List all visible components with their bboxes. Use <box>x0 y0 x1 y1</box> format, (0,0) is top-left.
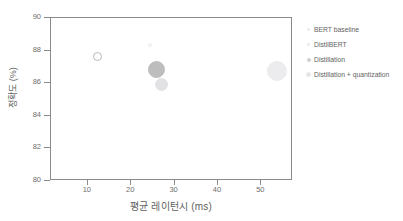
chart-legend: BERT baselineDistilBERTDistillationDisti… <box>303 22 403 82</box>
data-point <box>148 43 152 47</box>
data-point <box>93 52 102 61</box>
data-point <box>267 61 287 81</box>
legend-label: Distillation <box>314 55 345 64</box>
legend-marker-icon <box>303 58 314 62</box>
data-point <box>148 61 165 78</box>
x-tick-label: 30 <box>159 186 189 194</box>
y-tick-label: 80 <box>0 176 41 184</box>
legend-label: BERT baseline <box>314 25 359 34</box>
x-axis-label: 평균 레이턴시 (ms) <box>50 198 292 213</box>
legend-item[interactable]: Distillation + quantization <box>303 67 403 82</box>
y-tick-label: 82 <box>0 143 41 151</box>
y-tick-label: 90 <box>0 13 41 21</box>
x-tick-label: 50 <box>245 186 275 194</box>
legend-item[interactable]: Distillation <box>303 52 403 67</box>
legend-marker-icon <box>303 43 314 46</box>
legend-marker-icon <box>303 28 314 31</box>
x-tick-label: 20 <box>115 186 145 194</box>
legend-item[interactable]: DistilBERT <box>303 37 403 52</box>
y-axis-label: 정확도 (%) <box>6 43 19 133</box>
legend-label: DistilBERT <box>314 40 347 49</box>
legend-item[interactable]: BERT baseline <box>303 22 403 37</box>
plot-area <box>50 17 292 180</box>
data-point <box>155 78 168 91</box>
y-tick <box>44 180 50 181</box>
legend-label: Distillation + quantization <box>314 70 389 79</box>
x-tick-label: 10 <box>72 186 102 194</box>
chart-figure: 808284868890 1020304050 평균 레이턴시 (ms) 정확도… <box>0 0 403 221</box>
legend-marker-icon <box>303 72 314 77</box>
x-tick-label: 40 <box>202 186 232 194</box>
